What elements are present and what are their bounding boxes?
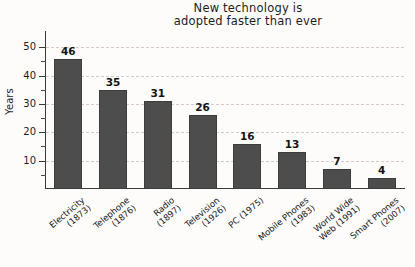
- y-tick-label-50: 50: [10, 41, 36, 52]
- bar-value-label: 7: [317, 155, 357, 167]
- bar-value-label: 4: [362, 164, 402, 176]
- bar: [278, 152, 306, 189]
- y-tick-label-10: 10: [10, 155, 36, 166]
- y-tick-30: [39, 104, 46, 105]
- gridline-50: [46, 47, 404, 48]
- chart-title: New technology is adopted faster than ev…: [148, 2, 348, 28]
- bar-value-label: 31: [138, 87, 178, 99]
- y-tick-label-30: 30: [10, 98, 36, 109]
- bar: [54, 59, 82, 189]
- y-tick-label-40: 40: [10, 70, 36, 81]
- bar: [144, 101, 172, 189]
- bar-value-label: 16: [227, 130, 267, 142]
- bar: [189, 115, 217, 189]
- bar: [99, 90, 127, 189]
- bar: [323, 169, 351, 189]
- bar-value-label: 26: [183, 101, 223, 113]
- y-tick-40: [39, 76, 46, 77]
- bar: [233, 144, 261, 189]
- y-tick-50: [39, 47, 46, 48]
- bar-value-label: 35: [93, 76, 133, 88]
- y-tick-label-20: 20: [10, 126, 36, 137]
- bar-chart: New technology is adopted faster than ev…: [0, 0, 415, 267]
- bar-value-label: 13: [272, 138, 312, 150]
- bar-value-label: 46: [48, 45, 88, 57]
- y-tick-20: [39, 132, 46, 133]
- y-tick-10: [39, 161, 46, 162]
- bar: [368, 178, 396, 189]
